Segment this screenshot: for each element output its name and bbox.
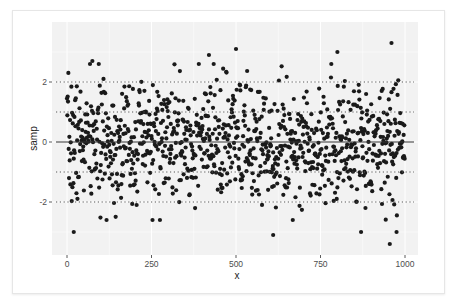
data-point bbox=[303, 169, 307, 173]
data-point bbox=[153, 187, 157, 191]
data-point bbox=[261, 152, 265, 156]
data-point bbox=[74, 171, 78, 175]
data-point bbox=[172, 62, 176, 66]
data-point bbox=[269, 136, 273, 140]
data-point bbox=[282, 107, 286, 111]
data-point bbox=[301, 132, 305, 136]
data-point bbox=[134, 127, 138, 131]
data-point bbox=[384, 141, 388, 145]
data-point bbox=[397, 130, 401, 134]
data-point bbox=[394, 82, 398, 86]
data-point bbox=[168, 152, 172, 156]
data-point bbox=[282, 113, 286, 117]
data-point bbox=[271, 167, 275, 171]
data-point bbox=[118, 146, 122, 150]
data-point bbox=[163, 130, 167, 134]
data-point bbox=[169, 122, 173, 126]
data-point bbox=[65, 113, 69, 117]
data-point bbox=[235, 134, 239, 138]
data-point bbox=[147, 99, 151, 103]
data-point bbox=[89, 184, 93, 188]
data-point bbox=[228, 144, 232, 148]
data-point bbox=[111, 103, 115, 107]
data-point bbox=[190, 144, 194, 148]
data-point bbox=[213, 93, 217, 97]
data-point bbox=[170, 91, 174, 95]
data-point bbox=[223, 145, 227, 149]
data-point bbox=[173, 96, 177, 100]
data-point bbox=[221, 126, 225, 130]
data-point bbox=[386, 175, 390, 179]
data-point bbox=[109, 161, 113, 165]
data-point bbox=[168, 161, 172, 165]
data-point bbox=[85, 101, 89, 105]
data-point bbox=[317, 192, 321, 196]
data-point bbox=[352, 129, 356, 133]
data-point bbox=[249, 162, 253, 166]
data-point bbox=[209, 91, 213, 95]
data-point bbox=[387, 97, 391, 101]
data-point bbox=[188, 124, 192, 128]
data-point bbox=[122, 106, 126, 110]
x-tick-label: 1000 bbox=[396, 259, 415, 269]
data-point bbox=[152, 124, 156, 128]
data-point bbox=[321, 131, 325, 135]
data-point bbox=[165, 105, 169, 109]
data-point bbox=[161, 119, 165, 123]
data-point bbox=[295, 162, 299, 166]
data-point bbox=[206, 99, 210, 103]
data-point bbox=[343, 166, 347, 170]
data-point bbox=[262, 102, 266, 106]
data-point bbox=[100, 177, 104, 181]
data-point bbox=[281, 102, 285, 106]
outlier-point bbox=[271, 233, 275, 237]
data-point bbox=[185, 138, 189, 142]
data-point bbox=[182, 132, 186, 136]
data-point bbox=[343, 120, 347, 124]
data-point bbox=[252, 113, 256, 117]
data-point bbox=[232, 146, 236, 150]
data-point bbox=[204, 92, 208, 96]
data-point bbox=[385, 112, 389, 116]
data-point bbox=[237, 147, 241, 151]
data-point bbox=[305, 101, 309, 105]
data-point bbox=[242, 103, 246, 107]
data-point bbox=[195, 113, 199, 117]
x-axis: 02505007501000 bbox=[65, 255, 415, 269]
data-point bbox=[244, 84, 248, 88]
data-point bbox=[227, 133, 231, 137]
data-point bbox=[281, 119, 285, 123]
data-point bbox=[186, 120, 190, 124]
data-point bbox=[116, 131, 120, 135]
data-point bbox=[349, 184, 353, 188]
data-point bbox=[236, 126, 240, 130]
data-point bbox=[135, 189, 139, 193]
data-point bbox=[156, 132, 160, 136]
data-point bbox=[394, 176, 398, 180]
data-point bbox=[391, 87, 395, 91]
data-point bbox=[193, 206, 197, 210]
data-point bbox=[211, 154, 215, 158]
data-point bbox=[223, 131, 227, 135]
data-point bbox=[257, 192, 261, 196]
data-point bbox=[264, 96, 268, 100]
data-point bbox=[185, 176, 189, 180]
data-point bbox=[402, 133, 406, 137]
data-point bbox=[218, 167, 222, 171]
data-point bbox=[200, 124, 204, 128]
data-point bbox=[164, 154, 168, 158]
data-point bbox=[99, 163, 103, 167]
data-point bbox=[357, 98, 361, 102]
data-point bbox=[113, 153, 117, 157]
data-point bbox=[116, 187, 120, 191]
data-point bbox=[292, 150, 296, 154]
data-point bbox=[188, 192, 192, 196]
data-point bbox=[315, 167, 319, 171]
data-point bbox=[215, 137, 219, 141]
data-point bbox=[130, 167, 134, 171]
data-point bbox=[219, 190, 223, 194]
data-point bbox=[293, 131, 297, 135]
data-point bbox=[97, 186, 101, 190]
data-point bbox=[209, 143, 213, 147]
data-point bbox=[99, 151, 103, 155]
